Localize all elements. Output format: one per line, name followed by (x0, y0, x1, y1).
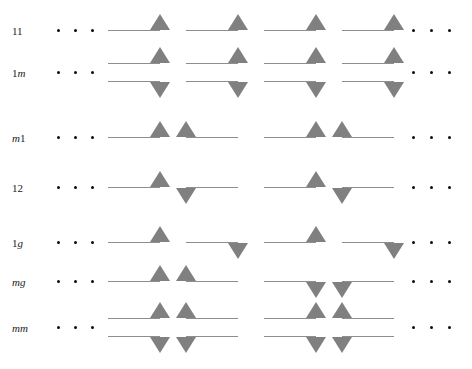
horizontal-rule (342, 30, 394, 31)
ellipsis-dot (57, 136, 60, 139)
triangle-up-icon (306, 47, 326, 63)
triangle-down-icon (176, 337, 196, 353)
triangle-up-icon (176, 265, 196, 281)
ellipsis-dot (57, 241, 60, 244)
triangle-up-icon (384, 14, 404, 30)
horizontal-rule (264, 318, 316, 319)
row-label-mm: mm (12, 322, 28, 334)
horizontal-rule (264, 242, 316, 243)
triangle-up-icon (150, 265, 170, 281)
triangle-up-icon (228, 47, 248, 63)
label-glyph: m (12, 276, 20, 288)
ellipsis-dot (412, 186, 415, 189)
row-label-12: 12 (12, 182, 23, 194)
ellipsis-dot (448, 280, 451, 283)
horizontal-rule (186, 137, 238, 138)
triangle-down-icon (228, 82, 248, 98)
row-label-mg: mg (12, 276, 25, 288)
horizontal-rule (108, 137, 160, 138)
label-glyph: g (20, 276, 26, 288)
ellipsis-dot (57, 186, 60, 189)
label-glyph: 2 (18, 182, 24, 194)
triangle-down-icon (176, 188, 196, 204)
ellipsis-dot (91, 71, 94, 74)
ellipsis-dot (57, 29, 60, 32)
horizontal-rule (108, 281, 160, 282)
ellipsis-dot (430, 280, 433, 283)
triangle-up-icon (306, 171, 326, 187)
ellipsis-dot (91, 136, 94, 139)
ellipsis-dot (430, 326, 433, 329)
horizontal-rule (108, 318, 160, 319)
ellipsis-dot (412, 241, 415, 244)
triangle-down-icon (150, 82, 170, 98)
triangle-up-icon (332, 302, 352, 318)
triangle-up-icon (384, 47, 404, 63)
horizontal-rule (186, 281, 238, 282)
horizontal-rule (342, 318, 394, 319)
horizontal-rule (264, 187, 316, 188)
ellipsis-dot (412, 29, 415, 32)
horizontal-rule (108, 30, 160, 31)
triangle-down-icon (228, 243, 248, 259)
horizontal-rule (264, 137, 316, 138)
triangle-up-icon (176, 121, 196, 137)
ellipsis-dot (448, 186, 451, 189)
triangle-up-icon (306, 226, 326, 242)
triangle-down-icon (332, 188, 352, 204)
triangle-up-icon (150, 302, 170, 318)
ellipsis-dot (74, 29, 77, 32)
group-symbol-diagram: 111mm1121gmgmm (0, 0, 472, 369)
ellipsis-dot (412, 136, 415, 139)
ellipsis-dot (430, 136, 433, 139)
horizontal-rule (108, 242, 160, 243)
ellipsis-dot (91, 186, 94, 189)
ellipsis-dot (74, 241, 77, 244)
ellipsis-dot (430, 241, 433, 244)
ellipsis-dot (57, 326, 60, 329)
horizontal-rule (264, 63, 316, 64)
ellipsis-dot (430, 29, 433, 32)
ellipsis-dot (448, 71, 451, 74)
horizontal-rule (186, 63, 238, 64)
ellipsis-dot (57, 280, 60, 283)
triangle-up-icon (150, 47, 170, 63)
triangle-up-icon (150, 226, 170, 242)
row-label-m1: m1 (12, 132, 25, 144)
label-glyph: m (12, 132, 20, 144)
ellipsis-dot (74, 326, 77, 329)
ellipsis-dot (57, 71, 60, 74)
triangle-down-icon (306, 337, 326, 353)
horizontal-rule (186, 30, 238, 31)
label-glyph: m (12, 322, 20, 334)
triangle-up-icon (150, 14, 170, 30)
label-glyph: g (18, 237, 24, 249)
horizontal-rule (264, 30, 316, 31)
ellipsis-dot (412, 280, 415, 283)
horizontal-rule (342, 63, 394, 64)
ellipsis-dot (448, 326, 451, 329)
ellipsis-dot (74, 71, 77, 74)
triangle-down-icon (332, 282, 352, 298)
triangle-down-icon (332, 337, 352, 353)
ellipsis-dot (448, 136, 451, 139)
label-glyph: m (18, 67, 26, 79)
horizontal-rule (186, 318, 238, 319)
ellipsis-dot (448, 241, 451, 244)
row-label-1m: 1m (12, 67, 25, 79)
triangle-down-icon (306, 282, 326, 298)
label-glyph: m (20, 322, 28, 334)
ellipsis-dot (74, 186, 77, 189)
triangle-up-icon (332, 121, 352, 137)
horizontal-rule (108, 187, 160, 188)
row-label-1g: 1g (12, 237, 23, 249)
ellipsis-dot (412, 326, 415, 329)
ellipsis-dot (430, 71, 433, 74)
label-glyph: 1 (17, 25, 23, 37)
triangle-up-icon (150, 171, 170, 187)
triangle-down-icon (306, 82, 326, 98)
triangle-up-icon (228, 14, 248, 30)
triangle-down-icon (150, 337, 170, 353)
row-label-11: 11 (12, 25, 23, 37)
triangle-up-icon (306, 14, 326, 30)
